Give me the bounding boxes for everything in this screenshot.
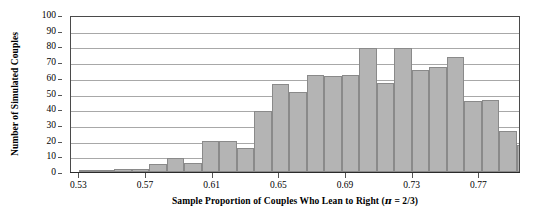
x-tick-label: 0.69 xyxy=(320,180,370,191)
pi-symbol: π xyxy=(385,195,392,206)
x-tick-mark xyxy=(412,173,413,178)
x-axis-title-prefix: Sample Proportion of Couples Who Lean to… xyxy=(172,196,385,206)
x-tick-mark xyxy=(145,173,146,178)
x-tick-mark xyxy=(212,173,213,178)
x-tick-label: 0.61 xyxy=(187,180,237,191)
x-tick-label: 0.53 xyxy=(53,180,103,191)
x-tick-label: 0.57 xyxy=(120,180,170,191)
x-axis-title: Sample Proportion of Couples Who Lean to… xyxy=(70,195,520,206)
x-axis-title-suffix: = 2/3) xyxy=(392,196,418,206)
x-tick-label: 0.73 xyxy=(387,180,437,191)
x-tick-mark xyxy=(78,173,79,178)
x-tick-mark xyxy=(278,173,279,178)
x-tick-label: 0.65 xyxy=(253,180,303,191)
histogram-figure: Number of Simulated Couples 010203040506… xyxy=(0,0,550,215)
x-tick-label: 0.77 xyxy=(453,180,503,191)
x-tick-mark xyxy=(478,173,479,178)
x-tick-mark xyxy=(345,173,346,178)
x-axis-ticks: 0.530.570.610.650.690.730.77 xyxy=(0,0,550,215)
